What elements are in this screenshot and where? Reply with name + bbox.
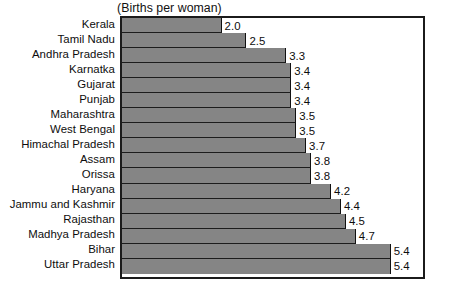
bar-row: 3.4	[122, 63, 423, 78]
bar-row: 2.5	[122, 33, 423, 48]
bar-value-label: 4.4	[341, 200, 360, 212]
bar	[122, 93, 291, 108]
category-label: Haryana	[0, 182, 118, 197]
bar	[122, 259, 391, 274]
category-label: Uttar Pradesh	[0, 257, 118, 272]
plot-area: 2.02.53.33.43.43.43.53.53.73.83.84.24.44…	[120, 16, 425, 279]
bar-value-label: 4.5	[346, 215, 365, 227]
bar-row: 5.4	[122, 259, 423, 274]
category-label: Kerala	[0, 16, 118, 31]
bar	[122, 63, 291, 78]
bar	[122, 18, 222, 33]
bar-value-label: 3.4	[291, 65, 310, 77]
category-label: Maharashtra	[0, 106, 118, 121]
category-label: Bihar	[0, 242, 118, 257]
bar-row: 2.0	[122, 18, 423, 33]
bar-row: 3.8	[122, 168, 423, 183]
bar	[122, 229, 356, 244]
bar	[122, 214, 346, 229]
bar-row: 3.4	[122, 93, 423, 108]
bar-row: 4.2	[122, 184, 423, 199]
bar	[122, 138, 306, 153]
category-label: West Bengal	[0, 121, 118, 136]
bar	[122, 33, 246, 48]
bar-row: 3.5	[122, 108, 423, 123]
bar-value-label: 3.4	[291, 80, 310, 92]
category-label: Andhra Pradesh	[0, 46, 118, 61]
bar-value-label: 3.8	[311, 155, 330, 167]
category-axis-labels: KeralaTamil NaduAndhra PradeshKarnatkaGu…	[0, 16, 118, 279]
category-label: Assam	[0, 151, 118, 166]
bar-row: 3.4	[122, 78, 423, 93]
bar-value-label: 3.3	[286, 50, 305, 62]
chart-subtitle: (Births per woman)	[117, 1, 222, 15]
bar-row: 3.3	[122, 48, 423, 63]
bar-row: 4.7	[122, 229, 423, 244]
bar	[122, 184, 331, 199]
bar-row: 3.8	[122, 153, 423, 168]
bar-row: 3.7	[122, 138, 423, 153]
bar-value-label: 5.4	[391, 245, 410, 257]
bar-row: 5.4	[122, 244, 423, 259]
bar-value-label: 4.2	[331, 185, 350, 197]
bar	[122, 244, 391, 259]
bar-row: 4.4	[122, 199, 423, 214]
bar-value-label: 3.4	[291, 95, 310, 107]
category-label: Punjab	[0, 91, 118, 106]
bar	[122, 168, 311, 183]
bar-value-label: 2.5	[246, 35, 265, 47]
category-label: Tamil Nadu	[0, 31, 118, 46]
bar-value-label: 3.8	[311, 170, 330, 182]
bar	[122, 123, 296, 138]
category-label: Rajasthan	[0, 212, 118, 227]
bar	[122, 48, 286, 63]
category-label: Madhya Pradesh	[0, 227, 118, 242]
category-label: Himachal Pradesh	[0, 136, 118, 151]
bar-value-label: 4.7	[356, 230, 375, 242]
bar-value-label: 2.0	[222, 20, 241, 32]
bar	[122, 199, 341, 214]
bars-container: 2.02.53.33.43.43.43.53.53.73.83.84.24.44…	[122, 18, 423, 277]
category-label: Karnatka	[0, 61, 118, 76]
fertility-rate-bar-chart: (Births per woman) KeralaTamil NaduAndhr…	[0, 0, 450, 290]
bar-row: 3.5	[122, 123, 423, 138]
bar	[122, 153, 311, 168]
bar-value-label: 3.5	[296, 110, 315, 122]
bar-value-label: 3.7	[306, 140, 325, 152]
bar	[122, 108, 296, 123]
category-label: Gujarat	[0, 76, 118, 91]
bar-value-label: 5.4	[391, 260, 410, 272]
bar-row: 4.5	[122, 214, 423, 229]
category-label: Orissa	[0, 166, 118, 181]
bar	[122, 78, 291, 93]
bar-value-label: 3.5	[296, 125, 315, 137]
category-label: Jammu and Kashmir	[0, 197, 118, 212]
